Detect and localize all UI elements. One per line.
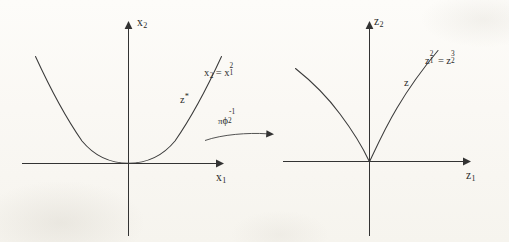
left-x-axis-arrowhead [216, 160, 224, 168]
figure-svg [0, 0, 509, 242]
right-x-axis-arrowhead [463, 158, 471, 166]
left-curve-equation-label: x2=x21 [204, 65, 235, 79]
left-x-axis-label: x1 [216, 172, 226, 185]
transformation-arrow-head [266, 130, 274, 137]
right-x-axis-label: z1 [466, 170, 476, 183]
left-plot-group [22, 21, 224, 236]
left-point-label: z* [180, 93, 189, 105]
right-cusp-right-branch [370, 51, 438, 162]
transformation-label: πϕ-12 [218, 113, 234, 126]
right-point-label: z [404, 78, 409, 89]
transformation-arrow-shaft [205, 133, 267, 140]
figure-canvas: x2 x1 x2=x21 z* πϕ-12 z2 z1 z21=z32 z [0, 0, 509, 242]
right-y-axis-arrowhead [366, 21, 374, 29]
left-y-axis-label: x2 [137, 17, 147, 30]
right-cusp-left-branch [296, 69, 370, 162]
transformation-arrow-group [205, 130, 274, 140]
right-y-axis-label: z2 [374, 16, 384, 29]
left-y-axis-arrowhead [125, 21, 133, 29]
right-curve-equation-label: z21=z32 [425, 53, 457, 66]
